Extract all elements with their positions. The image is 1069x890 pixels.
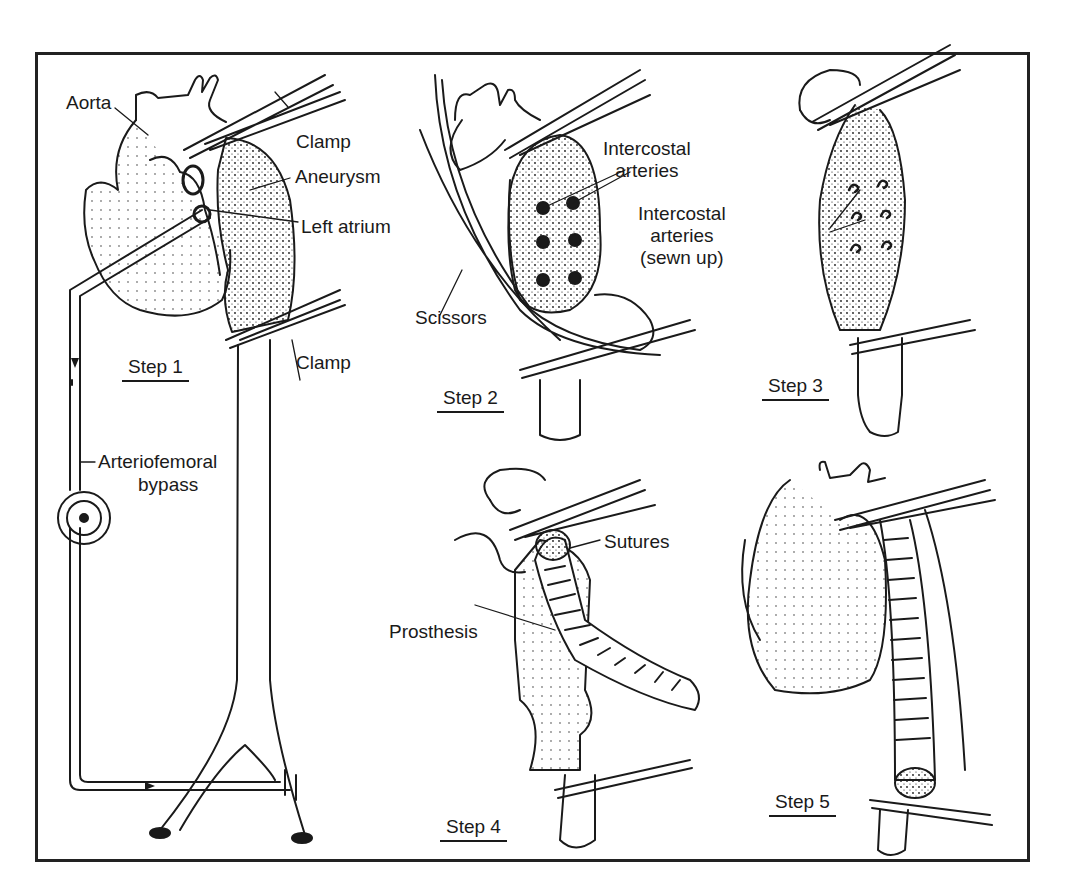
label-clamp-bottom: Clamp [296,352,351,374]
label-intercostal-line1: Intercostal [603,138,691,160]
step1-descending-aorta [150,340,312,843]
step-3-caption: Step 3 [762,375,829,401]
step-5-caption: Step 5 [769,791,836,817]
label-intercostal-sewn-line1: Intercostal [638,203,726,225]
label-intercostal-arteries: Intercostal arteries [603,138,691,182]
label-intercostal-sewn: Intercostal arteries (sewn up) [638,203,726,269]
bypass-pump-icon [58,492,110,544]
label-aneurysm: Aneurysm [295,166,381,188]
label-sutures: Sutures [604,531,669,553]
label-clamp-top: Clamp [296,131,351,153]
label-intercostal-line2: arteries [603,160,691,182]
step-1-caption: Step 1 [122,356,189,382]
surgical-illustration [0,0,1069,890]
step-2-caption: Step 2 [437,387,504,413]
step5-graft [880,510,965,798]
label-prosthesis: Prosthesis [389,621,478,643]
label-bypass: bypass [138,474,198,496]
step5-heart [742,462,886,694]
label-intercostal-sewn-line2: arteries [638,225,726,247]
label-intercostal-sewn-line3: (sewn up) [638,247,726,269]
step-4-caption: Step 4 [440,816,507,842]
label-arteriofemoral: Arteriofemoral [98,451,217,473]
label-aorta: Aorta [66,92,111,114]
leader-lines [80,92,865,630]
label-left-atrium: Left atrium [301,216,391,238]
label-scissors: Scissors [415,307,487,329]
